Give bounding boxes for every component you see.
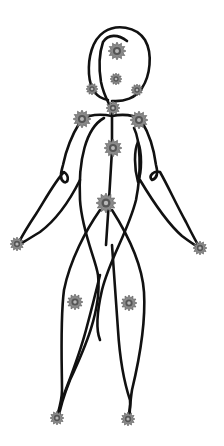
left-body-curve [58, 118, 104, 420]
marker-knee-right-icon [121, 295, 137, 311]
body-figure [0, 0, 224, 446]
marker-chest-icon [104, 139, 122, 157]
right-leg-inner [112, 245, 130, 420]
right-arm [142, 122, 200, 248]
marker-foot-right-icon [121, 412, 135, 426]
marker-knee-left-icon [67, 294, 83, 310]
figure-outline [18, 27, 200, 420]
spine-line [106, 104, 112, 245]
marker-foot-left-icon [50, 411, 64, 425]
marker-shoulder-left-icon [73, 110, 91, 128]
left-leg-outer [56, 210, 100, 420]
marker-head-right-icon [131, 84, 143, 96]
marker-head-top-icon [108, 42, 126, 60]
marker-hand-right-icon [193, 241, 207, 255]
right-body-curve [97, 128, 139, 340]
marker-head-center-icon [110, 73, 122, 85]
